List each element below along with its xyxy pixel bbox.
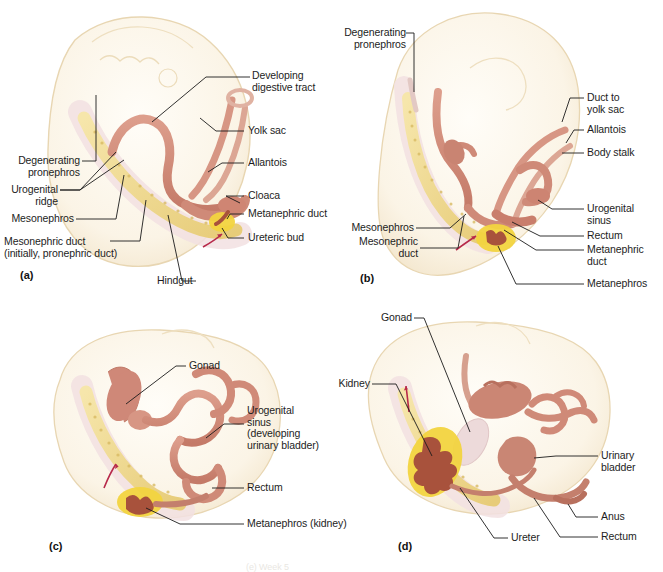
label-gonad-c: Gonad	[189, 360, 220, 372]
label-degenerating-pronephros-b: Degenerating pronephros	[326, 27, 406, 50]
label-mesonephros-b: Mesonephros	[330, 222, 414, 234]
label-degenerating-pronephros-a: Degenerating pronephros	[0, 155, 80, 178]
label-urinary-bladder: Urinary bladder	[601, 450, 635, 473]
label-metanephros-b: Metanephros	[587, 278, 647, 290]
label-mesonephric-duct-b: Mesonephric duct	[330, 236, 418, 259]
label-metanephric-duct-b: Metanephric duct	[587, 244, 644, 267]
label-yolk-sac: Yolk sac	[248, 125, 286, 137]
label-ureter: Ureter	[511, 532, 540, 544]
panel-a-embryo	[48, 17, 252, 266]
label-ureteric-bud: Ureteric bud	[248, 232, 304, 244]
label-urogenital-sinus-c: Urogenital sinus (developing urinary bla…	[247, 405, 319, 451]
label-urogenital-sinus-b: Urogenital sinus	[587, 203, 634, 226]
label-hindgut: Hindgut	[157, 275, 193, 287]
panel-d-embryo	[368, 322, 610, 514]
figure-illustration	[0, 0, 663, 572]
label-rectum-b: Rectum	[587, 230, 623, 242]
label-rectum-c: Rectum	[247, 482, 283, 494]
panel-marker-d: (d)	[398, 540, 412, 552]
label-gonad-d: Gonad	[364, 312, 412, 324]
bottom-caption-partial: (e) Week 5	[246, 562, 289, 572]
label-allantois: Allantois	[248, 157, 287, 169]
panel-marker-b: (b)	[360, 272, 374, 284]
label-metanephric-duct: Metanephric duct	[248, 208, 327, 220]
label-allantois-b: Allantois	[587, 124, 626, 136]
label-cloaca: Cloaca	[248, 190, 280, 202]
panel-marker-a: (a)	[20, 269, 33, 281]
label-metanephros-kidney: Metanephros (kidney)	[247, 518, 347, 530]
label-mesonephric-duct-a: Mesonephric duct (initially, pronephric …	[4, 236, 117, 259]
label-developing-digestive-tract: Developing digestive tract	[252, 70, 315, 93]
label-rectum-d: Rectum	[601, 531, 637, 543]
label-duct-to-yolk-sac: Duct to yolk sac	[587, 92, 624, 115]
label-body-stalk: Body stalk	[587, 147, 634, 159]
label-kidney-d: Kidney	[322, 378, 370, 390]
panel-marker-c: (c)	[49, 540, 62, 552]
label-urogenital-ridge: Urogenital ridge	[0, 184, 58, 207]
label-mesonephros-a: Mesonephros	[0, 213, 74, 225]
label-anus: Anus	[601, 511, 625, 523]
